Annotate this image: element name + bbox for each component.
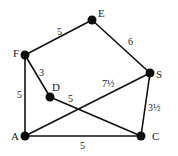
node-label-c: C <box>152 130 159 142</box>
node-f <box>21 51 30 60</box>
node-label-s: S <box>156 68 162 80</box>
edge-weight-d-c: 5 <box>68 93 73 104</box>
edge-weight-f-e: 5 <box>57 26 62 37</box>
node-a <box>21 132 30 141</box>
node-label-d: D <box>52 81 60 93</box>
edge-weight-e-s: 6 <box>128 36 133 47</box>
edge-e-s <box>92 20 150 73</box>
node-labels-layer: EFDSAC <box>11 7 162 142</box>
edge-weight-f-d: 3 <box>39 67 44 78</box>
edge-weight-a-s: 7½ <box>102 78 115 89</box>
node-c <box>137 132 146 141</box>
edge-weight-f-a: 5 <box>17 89 22 100</box>
node-s <box>146 69 155 78</box>
nodes-layer <box>21 16 155 141</box>
edge-weight-s-c: 3½ <box>148 102 161 113</box>
node-label-e: E <box>98 7 105 19</box>
edge-weight-a-c: 5 <box>80 140 85 151</box>
node-e <box>88 16 97 25</box>
edge-a-s <box>25 73 150 136</box>
edge-f-d <box>25 55 50 97</box>
node-label-f: F <box>13 47 19 59</box>
node-d <box>46 93 55 102</box>
weighted-graph-diagram: 563557½3½5 EFDSAC <box>0 0 178 156</box>
node-label-a: A <box>11 130 19 142</box>
